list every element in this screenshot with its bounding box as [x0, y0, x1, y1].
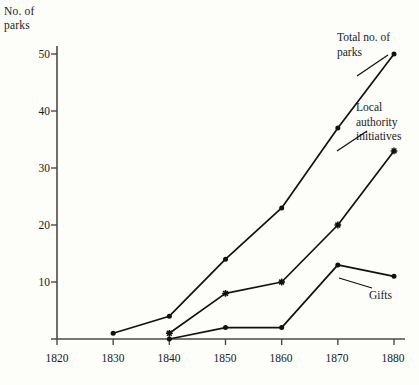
- y-axis-ticks: [51, 54, 57, 282]
- marker-star-1-0: [166, 330, 173, 337]
- marker-dot-0-1: [167, 314, 172, 319]
- axis-lines: [51, 46, 405, 345]
- marker-dot-0-0: [111, 331, 116, 336]
- marker-dot-2-2: [279, 325, 284, 330]
- marker-dot-0-5: [392, 52, 397, 57]
- marker-star-1-2: [278, 279, 285, 286]
- marker-star-1-3: [334, 222, 341, 229]
- marker-dot-0-4: [335, 126, 340, 131]
- marker-dot-2-3: [335, 262, 340, 267]
- marker-dot-2-1: [223, 325, 228, 330]
- series-local-authority-initiatives: [166, 148, 397, 337]
- leader-line-gifts: [339, 278, 372, 288]
- leader-line-local: [337, 131, 367, 151]
- x-axis-ticks: [57, 339, 394, 345]
- series-line-1: [169, 151, 394, 333]
- leader-line-total: [357, 55, 388, 76]
- marker-star-1-4: [391, 148, 398, 155]
- series-total-no-of-parks: [111, 52, 397, 336]
- series-gifts: [167, 262, 397, 341]
- label-leader-lines: [337, 55, 388, 288]
- marker-dot-2-0: [167, 337, 172, 342]
- parks-line-chart: No. of parks 50 40 30 20 10 1820 1830 18…: [0, 0, 419, 385]
- plot-area: [0, 0, 419, 385]
- marker-dot-0-3: [279, 205, 284, 210]
- series-line-0: [113, 54, 394, 333]
- marker-dot-2-4: [392, 274, 397, 279]
- marker-dot-0-2: [223, 257, 228, 262]
- marker-star-1-1: [222, 290, 229, 297]
- data-series-layer: [111, 52, 398, 342]
